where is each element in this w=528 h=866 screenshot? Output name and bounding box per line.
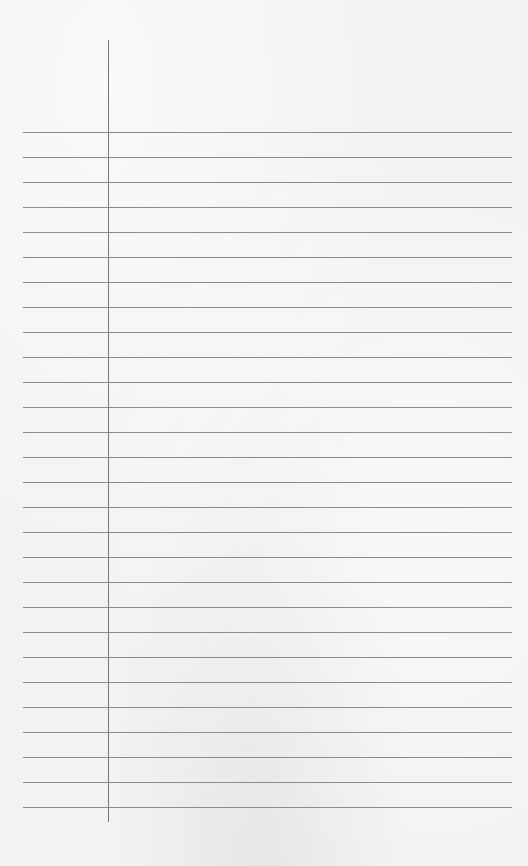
lined-paper [0,0,528,866]
ruled-line [23,432,512,433]
ruled-line [23,282,512,283]
ruled-line [23,757,512,758]
ruled-line [23,632,512,633]
ruled-line [23,557,512,558]
ruled-line [23,482,512,483]
ruled-line [23,457,512,458]
ruled-line [23,182,512,183]
ruled-line [23,532,512,533]
ruled-line [23,782,512,783]
ruled-line [23,507,512,508]
ruled-line [23,582,512,583]
ruled-line [23,132,512,133]
ruled-line [23,357,512,358]
ruled-line [23,682,512,683]
ruled-line [23,707,512,708]
ruled-line [23,257,512,258]
ruled-line [23,382,512,383]
ruled-line [23,732,512,733]
ruled-line [23,232,512,233]
ruled-line [23,207,512,208]
ruled-line [23,157,512,158]
ruled-line [23,307,512,308]
ruled-line [23,657,512,658]
ruled-line [23,807,512,808]
ruled-line [23,332,512,333]
ruled-line [23,407,512,408]
ruled-line [23,607,512,608]
